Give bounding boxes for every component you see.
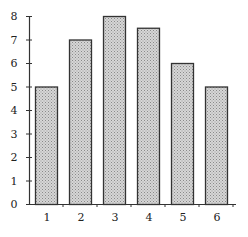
y-tick-label: 3	[11, 128, 18, 141]
x-axis: 123456	[29, 204, 236, 224]
bar-6	[206, 87, 228, 205]
x-tick-label: 1	[44, 211, 51, 224]
x-tick-label: 4	[146, 211, 153, 224]
bar-2	[70, 40, 92, 205]
y-tick-label: 6	[11, 57, 18, 70]
y-tick-label: 5	[11, 81, 18, 94]
x-tick-label: 3	[112, 211, 119, 224]
x-tick-label: 6	[214, 211, 221, 224]
x-tick-label: 2	[78, 211, 85, 224]
x-tick-label: 5	[180, 211, 187, 224]
bar-4	[138, 28, 160, 204]
y-tick-label: 0	[11, 198, 18, 211]
y-tick-label: 1	[11, 175, 18, 188]
y-axis: 012345678	[11, 10, 33, 211]
y-tick-label: 7	[11, 34, 18, 47]
bar-chart: 012345678 123456	[0, 0, 248, 237]
y-tick-label: 4	[11, 104, 18, 117]
bar-1	[36, 87, 58, 205]
y-tick-label: 8	[11, 10, 18, 23]
bars-group	[36, 17, 228, 205]
bar-5	[172, 64, 194, 205]
bar-3	[104, 17, 126, 205]
y-tick-label: 2	[11, 151, 18, 164]
